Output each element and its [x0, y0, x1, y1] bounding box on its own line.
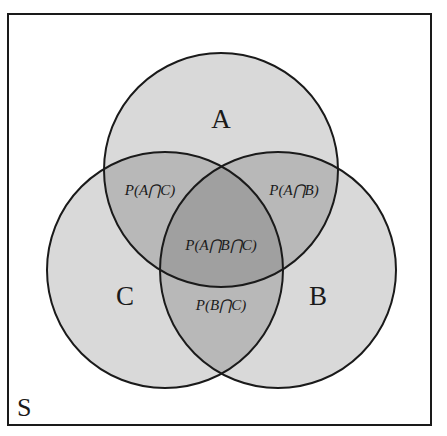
- universe-label: S: [17, 393, 31, 422]
- region-a-and-b-and-c-label: P(A⋂B⋂C): [184, 237, 256, 254]
- set-c-label: C: [116, 281, 134, 311]
- venn-diagram: A B C P(A⋂C) P(A⋂B) P(A⋂B⋂C) P(B⋂C) S: [0, 0, 447, 436]
- set-a-label: A: [211, 104, 231, 134]
- region-b-and-c-label: P(B⋂C): [195, 297, 246, 314]
- region-a-and-b-label: P(A⋂B): [268, 182, 318, 199]
- region-a-and-c-label: P(A⋂C): [124, 182, 175, 199]
- set-b-label: B: [309, 281, 327, 311]
